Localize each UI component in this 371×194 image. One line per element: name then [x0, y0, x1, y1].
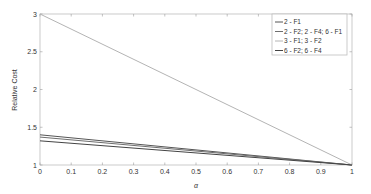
y-axis-tick-labels: 11.522.53: [27, 11, 37, 169]
legend-label: 6 - F2; 6 - F4: [284, 47, 322, 54]
line-chart: 11.522.53 00.10.20.30.40.50.60.70.80.91 …: [0, 0, 371, 194]
legend: 2 - F12 - F2; 2 - F4; 6 - F13 - F1; 3 - …: [272, 14, 347, 55]
x-tick-label: 0.8: [285, 168, 295, 175]
x-axis-label: α: [194, 182, 199, 189]
x-tick-label: 0.7: [254, 168, 264, 175]
x-tick-label: 1: [350, 168, 354, 175]
y-axis-label: Relative Cost: [11, 69, 18, 111]
y-tick-label: 1.5: [27, 124, 37, 131]
legend-item: 2 - F2; 2 - F4; 6 - F1: [275, 28, 343, 35]
x-tick-label: 0: [38, 168, 42, 175]
x-tick-label: 0.3: [129, 168, 139, 175]
x-tick-label: 0.9: [316, 168, 326, 175]
x-tick-label: 0.1: [66, 168, 76, 175]
y-tick-label: 1: [33, 162, 37, 169]
x-tick-label: 0.6: [222, 168, 232, 175]
x-tick-label: 0.2: [98, 168, 108, 175]
legend-label: 2 - F1: [284, 18, 301, 25]
legend-label: 2 - F2; 2 - F4; 6 - F1: [284, 28, 343, 35]
legend-label: 3 - F1; 3 - F2: [284, 37, 322, 44]
y-tick-label: 2: [33, 86, 37, 93]
y-tick-label: 2.5: [27, 48, 37, 55]
x-tick-label: 0.4: [160, 168, 170, 175]
x-tick-label: 0.5: [191, 168, 201, 175]
y-tick-label: 3: [33, 11, 37, 18]
x-axis-tick-labels: 00.10.20.30.40.50.60.70.80.91: [38, 168, 354, 175]
